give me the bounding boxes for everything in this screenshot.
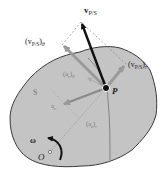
label-body-s: S	[33, 88, 37, 97]
label-point-p: P	[112, 86, 118, 96]
label-v-ps: vP/S	[84, 5, 97, 16]
label-omega: ω	[30, 136, 36, 145]
point-p	[102, 84, 109, 91]
label-v-ps-theta: (vP/S)θ	[25, 37, 45, 47]
origin-o	[48, 150, 51, 153]
label-origin-o: O	[38, 152, 45, 162]
relative-velocity-diagram: vP/S (vP/S)θ (vP/S)r (ac)θ ac (ac)r S P …	[0, 0, 165, 174]
dashed-theta-to-v	[62, 22, 81, 45]
